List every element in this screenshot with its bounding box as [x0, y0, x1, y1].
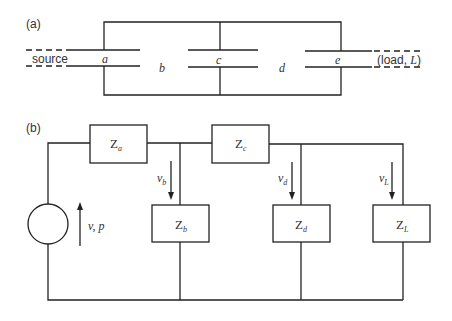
zb-label: Zb [175, 217, 187, 234]
vb-label: vb [157, 171, 166, 187]
zl-label: ZL [396, 217, 409, 234]
zd-label: Zd [295, 217, 308, 234]
load-label: (load, L) [377, 53, 421, 67]
panel-b-label: (b) [26, 121, 41, 135]
section-d-label: d [279, 61, 286, 75]
source-label: v, p [88, 219, 104, 233]
zc-label: Zc [235, 136, 247, 153]
za-label: Za [110, 136, 122, 153]
vl-label: vL [379, 171, 389, 187]
panel-a-tube-diagram: (a) source a b c d e (load, L) [26, 17, 421, 95]
vd-label: vd [278, 171, 288, 187]
section-e-label: e [335, 53, 341, 67]
section-b-label: b [159, 61, 165, 75]
panel-b-circuit: (b) v, p Za Zc Zb vb Zd vd ZL [26, 121, 430, 300]
arrow-down-icon [389, 192, 395, 200]
panel-a-label: (a) [26, 17, 41, 31]
source-label: source [32, 52, 68, 66]
section-a-label: a [102, 52, 108, 66]
arrow-down-icon [289, 192, 295, 200]
arrow-up-icon [77, 202, 83, 210]
section-c-label: c [216, 53, 222, 67]
arrow-down-icon [168, 192, 174, 200]
voltage-source [28, 204, 68, 244]
acoustic-circuit-diagram: (a) source a b c d e (load, L) (b) [0, 0, 452, 321]
